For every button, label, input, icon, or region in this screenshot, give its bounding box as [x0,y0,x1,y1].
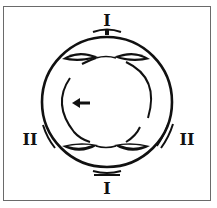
lens-bottom-left [62,143,98,151]
lens-top-connector [96,57,116,59]
inner-arc-right [126,62,151,118]
diagram-canvas: I I II II [0,0,217,208]
lens-bottom-right [114,143,150,151]
label-right-II: II [180,130,195,149]
contact-bottom [93,171,121,175]
inner-arc-right-lower [126,127,140,142]
label-top-I: I [103,11,110,30]
label-left-II: II [23,130,38,149]
arrow-left-icon [72,98,90,108]
label-bottom-I: I [103,179,110,198]
lens-bottom-connector [96,146,116,148]
lens-top-right [114,53,150,61]
inner-arc-left [62,78,90,142]
